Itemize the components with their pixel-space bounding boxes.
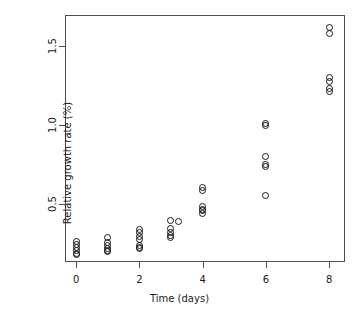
- y-axis-label: Relative growth rate (%): [62, 102, 73, 224]
- data-point: [199, 210, 206, 217]
- data-point: [199, 187, 206, 194]
- scatter-plot: 0.51.01.5 02468 Relative growth rate (%)…: [0, 0, 359, 326]
- x-tick: [139, 262, 140, 268]
- data-point: [73, 251, 80, 258]
- data-point: [326, 88, 333, 95]
- data-point: [262, 122, 269, 129]
- data-point: [326, 30, 333, 37]
- data-point: [262, 153, 269, 160]
- y-tick-label: 0.5: [47, 196, 58, 212]
- plot-data-area: 0.51.01.5 02468: [65, 15, 345, 262]
- y-tick-label: 1.0: [47, 117, 58, 133]
- x-tick-label: 6: [263, 274, 269, 285]
- data-point: [262, 192, 269, 199]
- x-tick-label: 8: [326, 274, 332, 285]
- data-point: [262, 163, 269, 170]
- x-tick-label: 2: [136, 274, 142, 285]
- data-point: [167, 217, 174, 224]
- y-tick-label: 1.5: [47, 39, 58, 55]
- y-tick: [59, 46, 65, 47]
- x-tick-label: 4: [199, 274, 205, 285]
- x-tick-label: 0: [73, 274, 79, 285]
- data-point: [167, 234, 174, 241]
- data-point: [104, 248, 111, 255]
- x-tick: [203, 262, 204, 268]
- x-axis-label: Time (days): [0, 293, 359, 304]
- x-tick: [329, 262, 330, 268]
- x-tick: [266, 262, 267, 268]
- data-point: [175, 218, 182, 225]
- x-tick: [76, 262, 77, 268]
- data-point: [136, 245, 143, 252]
